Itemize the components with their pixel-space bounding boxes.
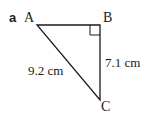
triangle-abc <box>37 25 100 100</box>
triangle-diagram <box>0 0 150 118</box>
right-angle-marker <box>90 25 100 35</box>
